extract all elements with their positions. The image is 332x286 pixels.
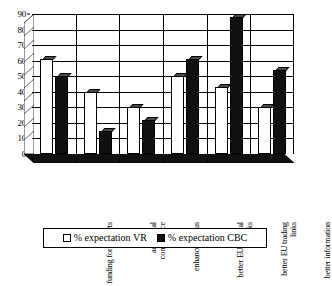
bar-top-cap [129, 104, 144, 108]
legend-item-cbc: % expectation CBC [157, 233, 247, 243]
y-tick-label: 80 [17, 25, 26, 34]
bar-top-cap [144, 117, 159, 121]
bar-cbc [99, 131, 112, 154]
bar-cbc [186, 59, 199, 154]
bar-top-cap [101, 128, 116, 132]
bar-vr [127, 107, 140, 154]
bar-vr [171, 76, 184, 154]
y-tick-label: 40 [17, 87, 26, 96]
y-tick-label: 60 [17, 56, 26, 65]
bar-cbc [273, 70, 286, 154]
y-tick-label: 70 [17, 41, 26, 50]
legend-label-vr: % expectation VR [74, 233, 147, 243]
y-tick-label: 30 [17, 103, 26, 112]
y-tick-label: 50 [17, 72, 26, 81]
bar-top-cap [188, 56, 203, 60]
x-tick-mark [32, 158, 33, 162]
bar-vr [84, 92, 97, 154]
y-tick-mark [27, 107, 30, 108]
x-tick-mark [207, 158, 208, 162]
bar-cbc [230, 17, 243, 154]
y-tick-mark [27, 122, 30, 123]
bar-vr [258, 107, 271, 154]
y-tick-mark [27, 60, 30, 61]
y-tick-mark [27, 76, 30, 77]
y-tick-mark [27, 91, 30, 92]
x-tick-mark [76, 158, 77, 162]
bar-top-cap [57, 73, 72, 77]
bar-cbc [142, 120, 155, 154]
bar-top-cap [275, 67, 290, 71]
y-axis: 0102030405060708090 [0, 14, 30, 154]
bar-top-cap [86, 89, 101, 93]
y-tick-label: 0 [22, 150, 26, 159]
y-tick-mark [27, 154, 30, 155]
x-tick-mark [119, 158, 120, 162]
bar-cbc [55, 76, 68, 154]
x-tick-mark [163, 158, 164, 162]
plot-area [32, 14, 294, 154]
bars-layer [32, 14, 294, 154]
bar-top-cap [42, 56, 57, 60]
x-tick-mark [250, 158, 251, 162]
x-tick-label: better EU trading links [280, 222, 298, 286]
y-tick-mark [27, 29, 30, 30]
bar-vr [40, 59, 53, 154]
y-tick-label: 10 [17, 134, 26, 143]
bar-vr [215, 87, 228, 154]
x-axis: funding for projectsadditional competenc… [32, 158, 294, 222]
y-tick-label: 90 [17, 10, 26, 19]
white-square-icon [63, 234, 71, 242]
legend-item-vr: % expectation VR [63, 233, 147, 243]
legend-label-cbc: % expectation CBC [168, 233, 247, 243]
legend: % expectation VR % expectation CBC [43, 228, 267, 248]
y-tick-mark [27, 14, 30, 15]
y-tick-mark [27, 138, 30, 139]
y-tick-label: 20 [17, 118, 26, 127]
black-square-icon [157, 234, 165, 242]
y-tick-mark [27, 45, 30, 46]
bar-top-cap [232, 14, 247, 18]
x-tick-label: better information [323, 222, 332, 286]
